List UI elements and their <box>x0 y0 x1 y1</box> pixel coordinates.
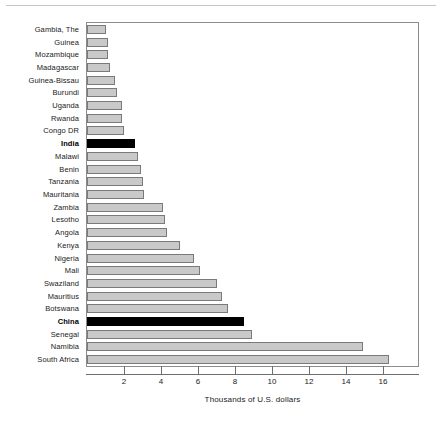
bar-china <box>87 317 244 326</box>
category-label: Madagascar <box>37 63 79 72</box>
category-label: Swaziland <box>44 279 79 288</box>
x-axis-tick <box>124 366 125 374</box>
category-label: Guinea <box>54 38 79 47</box>
x-axis-tick-label: 16 <box>379 377 388 387</box>
category-label: China <box>58 317 79 326</box>
category-label: Guinea-Bissau <box>29 76 80 85</box>
x-axis-tick <box>161 366 162 374</box>
category-label: India <box>61 139 79 148</box>
category-label: Tanzania <box>48 177 79 186</box>
category-label: Malawi <box>55 152 79 161</box>
x-axis-tick-label: 8 <box>233 377 237 387</box>
category-label: Gambia, The <box>35 25 79 34</box>
category-label: Congo DR <box>43 126 79 135</box>
bar-tanzania <box>87 177 143 186</box>
category-label: Mauritius <box>48 292 79 301</box>
bar-senegal <box>87 330 252 339</box>
bar-malawi <box>87 152 138 161</box>
x-axis-tick-label: 12 <box>305 377 314 387</box>
category-label: Lesotho <box>52 215 79 224</box>
x-axis-tick <box>346 366 347 374</box>
x-axis-tick-label: 14 <box>342 377 351 387</box>
bar-botswana <box>87 304 228 313</box>
category-label: Namibia <box>51 342 79 351</box>
bar-burundi <box>87 88 117 97</box>
x-axis-tick <box>309 366 310 374</box>
bar-mauritius <box>87 292 222 301</box>
bar-rwanda <box>87 114 122 123</box>
x-axis-tick <box>198 366 199 374</box>
x-axis-line <box>86 374 419 375</box>
x-axis-tick <box>272 366 273 374</box>
bar-mauritania <box>87 190 144 199</box>
category-label: Uganda <box>52 101 79 110</box>
bar-uganda <box>87 101 122 110</box>
category-label: Senegal <box>51 330 79 339</box>
chart-figure: Gambia, TheGuineaMozambiqueMadagascarGui… <box>0 0 442 422</box>
x-axis-tick <box>383 366 384 374</box>
bar-guinea-bissau <box>87 76 115 85</box>
category-label: Mozambique <box>35 50 79 59</box>
bar-congo-dr <box>87 126 124 135</box>
bar-nigeria <box>87 254 194 263</box>
bar-guinea <box>87 38 108 47</box>
bar-mozambique <box>87 50 108 59</box>
bar-zambia <box>87 203 163 212</box>
category-label: Nigeria <box>55 254 79 263</box>
x-axis-tick-label: 10 <box>268 377 277 387</box>
bar-mali <box>87 266 200 275</box>
bar-lesotho <box>87 215 165 224</box>
bar-india <box>87 139 135 148</box>
bar-angola <box>87 228 167 237</box>
category-axis-labels: Gambia, TheGuineaMozambiqueMadagascarGui… <box>0 23 83 366</box>
x-axis-title: Thousands of U.S. dollars <box>86 395 419 404</box>
category-label: South Africa <box>37 355 79 364</box>
category-label: Burundi <box>52 88 79 97</box>
bar-gambia-the <box>87 25 106 34</box>
category-label: Mali <box>65 266 79 275</box>
category-label: Kenya <box>57 241 79 250</box>
category-label: Rwanda <box>51 114 79 123</box>
category-label: Angola <box>55 228 79 237</box>
bar-madagascar <box>87 63 110 72</box>
x-axis-tick-label: 2 <box>122 377 126 387</box>
category-label: Zambia <box>53 203 79 212</box>
x-axis-tick-label: 6 <box>196 377 200 387</box>
bar-benin <box>87 165 141 174</box>
bar-swaziland <box>87 279 217 288</box>
bar-kenya <box>87 241 180 250</box>
category-label: Botswana <box>45 304 79 313</box>
top-divider-rule <box>6 5 436 6</box>
bar-namibia <box>87 342 363 351</box>
bars-layer <box>87 23 418 366</box>
x-axis-tick <box>235 366 236 374</box>
bar-south-africa <box>87 355 389 364</box>
category-label: Mauritania <box>43 190 79 199</box>
x-axis-tick-label: 4 <box>159 377 163 387</box>
category-label: Benin <box>59 165 79 174</box>
